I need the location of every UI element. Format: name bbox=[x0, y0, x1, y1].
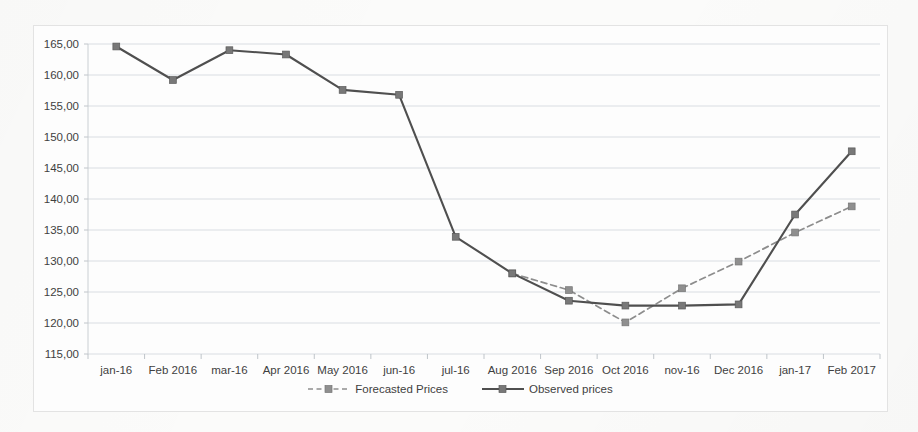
x-axis-tick-label: Dec 2016 bbox=[714, 364, 763, 376]
x-axis-tick-label: Feb 2016 bbox=[149, 364, 198, 376]
y-axis-tick-label: 155,00 bbox=[44, 100, 79, 112]
data-point-observed bbox=[848, 148, 855, 155]
x-axis-tick-label: Apr 2016 bbox=[263, 364, 310, 376]
y-axis-tick-label: 165,00 bbox=[44, 38, 79, 50]
x-axis-tick-label: Oct 2016 bbox=[602, 364, 649, 376]
legend-label-forecasted-prices: Forecasted Prices bbox=[355, 383, 448, 395]
y-axis-tick-label: 115,00 bbox=[45, 348, 79, 360]
data-point-observed bbox=[452, 233, 459, 240]
chart-plot-area: 115,00120,00125,00130,00135,00140,00145,… bbox=[0, 0, 918, 432]
data-point-observed bbox=[679, 302, 686, 309]
y-axis-tick-label: 120,00 bbox=[44, 317, 79, 329]
x-axis-tick-labels: jan-16Feb 2016mar-16Apr 2016May 2016jun-… bbox=[99, 364, 876, 376]
data-point-observed bbox=[170, 77, 177, 84]
chart-legend: Forecasted Prices Observed prices bbox=[33, 383, 888, 395]
x-axis-tick-label: Sep 2016 bbox=[544, 364, 593, 376]
data-point-observed bbox=[226, 47, 233, 54]
data-point-observed bbox=[566, 297, 573, 304]
y-axis-tick-label: 160,00 bbox=[44, 69, 79, 81]
x-axis-tick-label: jun-16 bbox=[382, 364, 415, 376]
x-axis-tick-label: mar-16 bbox=[211, 364, 247, 376]
y-axis-tick-label: 130,00 bbox=[44, 255, 79, 267]
data-point-observed bbox=[283, 51, 290, 58]
y-axis-tick-label: 125,00 bbox=[44, 286, 79, 298]
data-point-observed bbox=[339, 87, 346, 94]
data-point-observed bbox=[113, 43, 120, 50]
series-line-observed-prices bbox=[116, 47, 851, 306]
x-axis-tick-label: jul-16 bbox=[441, 364, 470, 376]
data-point-forecasted bbox=[735, 258, 742, 265]
x-axis-tick-label: jan-17 bbox=[778, 364, 811, 376]
data-point-forecasted bbox=[848, 203, 855, 210]
data-series-group bbox=[113, 43, 855, 326]
x-axis-tick-label: nov-16 bbox=[664, 364, 699, 376]
x-axis-tick-label: jan-16 bbox=[99, 364, 132, 376]
data-point-observed bbox=[792, 211, 799, 218]
data-point-forecasted bbox=[566, 287, 573, 294]
x-axis-tick-label: Aug 2016 bbox=[488, 364, 537, 376]
y-axis-tick-label: 145,00 bbox=[44, 162, 79, 174]
data-point-forecasted bbox=[622, 319, 629, 326]
x-axis-tick-label: Feb 2017 bbox=[827, 364, 876, 376]
y-axis-tick-labels: 115,00120,00125,00130,00135,00140,00145,… bbox=[44, 38, 79, 360]
data-point-forecasted bbox=[679, 285, 686, 292]
data-point-observed bbox=[622, 302, 629, 309]
data-point-observed bbox=[396, 91, 403, 98]
data-point-forecasted bbox=[792, 229, 799, 236]
data-point-observed bbox=[509, 270, 516, 277]
line-chart: 115,00120,00125,00130,00135,00140,00145,… bbox=[0, 0, 918, 432]
data-point-observed bbox=[735, 301, 742, 308]
legend-label-observed-prices: Observed prices bbox=[529, 383, 613, 395]
legend-item-forecasted-prices[interactable]: Forecasted Prices bbox=[308, 383, 448, 395]
y-axis-tick-label: 140,00 bbox=[44, 193, 79, 205]
legend-swatch-dashed-icon bbox=[308, 383, 350, 395]
gridlines-group bbox=[84, 44, 880, 359]
y-axis-tick-label: 135,00 bbox=[44, 224, 79, 236]
y-axis-tick-label: 150,00 bbox=[44, 131, 79, 143]
legend-item-observed-prices[interactable]: Observed prices bbox=[482, 383, 613, 395]
legend-swatch-solid-icon bbox=[482, 383, 524, 395]
x-axis-tick-label: May 2016 bbox=[317, 364, 368, 376]
